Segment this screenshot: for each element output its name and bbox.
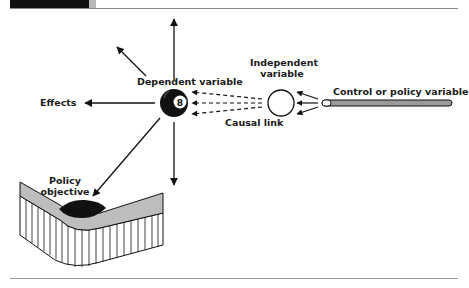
independent-variable-label: Independent variable: [250, 57, 314, 79]
svg-text:8: 8: [177, 98, 183, 108]
effects-label: Effects: [40, 97, 76, 108]
control-rod: [322, 100, 452, 106]
causal-link-label: Causal link: [225, 117, 283, 128]
bottom-rule: [10, 278, 458, 279]
control-arrows: [297, 92, 318, 114]
causal-link-arrows: [192, 92, 262, 114]
dependent-variable-label: Dependent variable: [137, 76, 243, 87]
effect-arrows: [85, 19, 174, 196]
arrow-to-policy-objective: [93, 118, 160, 196]
control-variable-label: Control or policy variable: [333, 86, 469, 97]
arrow-up-left: [117, 47, 146, 76]
eight-ball-icon: 8: [160, 89, 188, 117]
policy-objective-label: Policy objective: [40, 175, 90, 197]
independent-variable-circle: [268, 90, 294, 116]
